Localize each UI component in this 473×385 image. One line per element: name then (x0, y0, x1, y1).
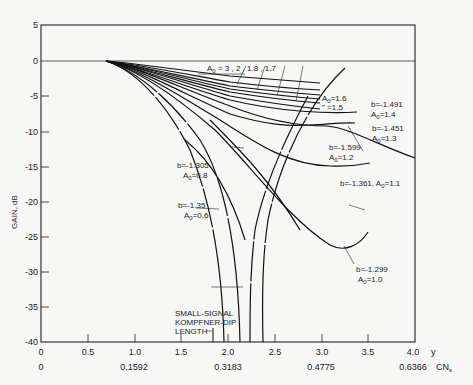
svg-text:-25: -25 (25, 232, 38, 242)
curve-a0-1.3 (106, 61, 415, 158)
svg-text:-40: -40 (25, 337, 38, 347)
y-axis-ticks (41, 96, 49, 307)
svg-text:0.4775: 0.4775 (307, 362, 335, 372)
x-axis-secondary-labels: 0 0.1592 0.3183 0.4775 0.6366 CNs (38, 362, 452, 373)
svg-text:-20: -20 (25, 197, 38, 207)
annotation-kompfner-2: KOMPFNER-DIP (175, 318, 236, 327)
svg-text:5: 5 (33, 20, 38, 30)
annotation-b-1.35: b=-1.35 (178, 201, 206, 210)
annotation-b-1.451: b=-1.451 (372, 124, 404, 133)
svg-text:-35: -35 (25, 302, 38, 312)
svg-text:0: 0 (38, 362, 43, 372)
svg-text:-30: -30 (25, 267, 38, 277)
svg-text:0.5: 0.5 (82, 347, 95, 357)
annotation-a0-1.5: " =1.5 (322, 103, 343, 112)
svg-text:2.5: 2.5 (269, 347, 282, 357)
annotation-a0-1.0: A0=1.0 (358, 275, 383, 285)
curve-dip-branch-1 (250, 96, 308, 342)
svg-text:0.6366: 0.6366 (399, 362, 427, 372)
annotation-top-group: A0 = 3 , 2 , 1.8 , 1.7 (207, 64, 277, 74)
annotation-b-1.599: b=-1.599 (329, 143, 361, 152)
annotation-b-1.299: b=-1.299 (356, 265, 388, 274)
annotation-b-1.361: b=-1.361, A0=1.1 (340, 179, 401, 189)
svg-text:4.0: 4.0 (407, 347, 420, 357)
svg-text:3.0: 3.0 (316, 347, 329, 357)
svg-text:-5: -5 (30, 91, 38, 101)
annotation-a0-1.3: A0=1.3 (372, 134, 397, 144)
annotation-a0-0.6: A0=0.6 (184, 211, 209, 221)
svg-text:-10: -10 (25, 127, 38, 137)
annotation-kompfner-3: LENGTH (175, 327, 208, 336)
annotation-b-1.305: b=-1.305 (177, 161, 209, 170)
annotation-kompfner-1: SMALL-SIGNAL (175, 309, 234, 318)
svg-text:0: 0 (33, 56, 38, 66)
svg-text:1.0: 1.0 (129, 347, 142, 357)
annotation-b-1.491: b=-1.491 (371, 100, 403, 109)
gain-chart: 5 0 -5 -10 -15 -20 -25 -30 -35 -40 GAIN,… (0, 0, 473, 385)
y-axis-labels: 5 0 -5 -10 -15 -20 -25 -30 -35 -40 (25, 20, 38, 347)
annotation-a0-1.4: A0=1.4 (371, 110, 396, 120)
curve-crossing-1 (185, 140, 245, 240)
curve-a0-0.8 (106, 61, 240, 342)
x-axis-labels: 0 0.5 1.0 1.5 2.0 2.5 3.0 3.5 4.0 y (38, 347, 436, 357)
curve-crossing-2 (210, 120, 300, 230)
x2-axis-unit: CNs (436, 362, 452, 373)
gain-curves (106, 61, 415, 342)
svg-text:1.5: 1.5 (175, 347, 188, 357)
annotation-a0-1.2: A0=1.2 (329, 153, 354, 163)
x-axis-unit: y (431, 347, 436, 357)
svg-text:0.3183: 0.3183 (214, 362, 242, 372)
svg-text:0: 0 (38, 347, 43, 357)
y-axis-title: GAIN, dB (10, 195, 19, 229)
svg-text:3.5: 3.5 (362, 347, 375, 357)
svg-text:0.1592: 0.1592 (120, 362, 148, 372)
x-axis-ticks (88, 334, 368, 342)
svg-text:2.0: 2.0 (222, 347, 235, 357)
annotation-a0-0.8: A0=0.8 (183, 171, 208, 181)
svg-text:-15: -15 (25, 162, 38, 172)
